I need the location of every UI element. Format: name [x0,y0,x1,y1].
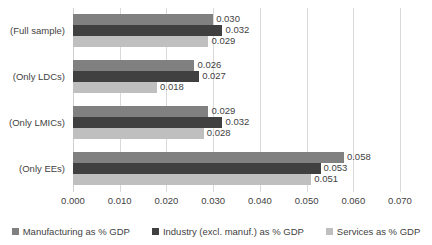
legend-swatch-icon [152,228,159,235]
x-tick-label: 0.070 [388,195,412,206]
bar[interactable] [73,106,208,117]
legend-label: Industry (excl. manuf.) as % GDP [163,226,304,237]
bar-chart: (Full sample) (Only LDCs) (Only LMICs) (… [0,0,432,245]
bar[interactable] [73,128,204,139]
x-tick-label: 0.030 [201,195,225,206]
category-label: (Only LMICs) [9,100,65,146]
category-label: (Only LDCs) [13,54,65,100]
bar-value-label: 0.051 [314,172,338,186]
x-tick-label: 0.020 [155,195,179,206]
x-tick-label: 0.000 [61,195,85,206]
bar-group: 0.0300.0320.029 [73,8,400,54]
legend-label: Manufacturing as % GDP [23,226,130,237]
bar[interactable] [73,117,222,128]
category-label: (Only EEs) [19,146,65,192]
legend-label: Services as % GDP [337,226,420,237]
bar[interactable] [73,174,311,185]
category-axis: (Full sample) (Only LDCs) (Only LMICs) (… [0,8,69,192]
legend-swatch-icon [12,228,19,235]
legend-swatch-icon [326,228,333,235]
legend-item[interactable]: Manufacturing as % GDP [12,226,130,237]
x-tick-label: 0.010 [108,195,132,206]
bar-group: 0.0580.0530.051 [73,146,400,192]
bar[interactable] [73,36,208,47]
chart-legend: Manufacturing as % GDPIndustry (excl. ma… [0,222,432,240]
value-axis: 0.0000.0100.0200.0300.0400.0500.0600.070 [73,193,400,211]
bar[interactable] [73,163,321,174]
legend-item[interactable]: Services as % GDP [326,226,420,237]
bar-value-label: 0.028 [207,126,231,140]
bar[interactable] [73,152,344,163]
bar[interactable] [73,25,222,36]
legend-item[interactable]: Industry (excl. manuf.) as % GDP [152,226,304,237]
gridline [400,8,401,192]
x-tick-label: 0.040 [248,195,272,206]
bar-value-label: 0.027 [202,69,226,83]
x-tick-label: 0.060 [341,195,365,206]
bar-value-label: 0.018 [160,80,184,94]
category-label: (Full sample) [10,8,65,54]
bar[interactable] [73,14,213,25]
bar[interactable] [73,82,157,93]
plot-area: 0.0300.0320.0290.0260.0270.0180.0290.032… [73,8,400,192]
bar-group: 0.0290.0320.028 [73,100,400,146]
bar-group: 0.0260.0270.018 [73,54,400,100]
bar-value-label: 0.029 [211,34,235,48]
bar-value-label: 0.058 [347,150,371,164]
x-tick-label: 0.050 [295,195,319,206]
bar[interactable] [73,60,194,71]
